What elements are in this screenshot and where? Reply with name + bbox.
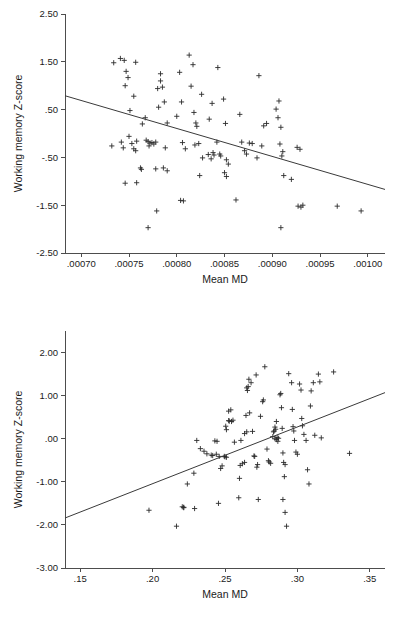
y-tick-label: -1.50 (36, 200, 58, 211)
y-tick-label: .50 (45, 104, 58, 115)
scatter-points-group (109, 53, 364, 231)
y-tick-label: 1.00 (40, 390, 59, 401)
x-tick-label: .00080 (162, 258, 191, 269)
y-tick-label: 2.00 (40, 347, 59, 358)
x-tick-label: .00085 (210, 258, 239, 269)
x-tick-label: .00100 (353, 258, 382, 269)
x-tick-label: .20 (146, 573, 159, 584)
x-tick-label: .00070 (67, 258, 96, 269)
scatter-plot-bottom-svg: 2.001.00.00-1.00-2.00-3.00.15.20.25.30.3… (0, 315, 393, 631)
y-tick-label: 1.50 (40, 56, 59, 67)
y-tick-label: -2.50 (36, 247, 58, 258)
regression-line (65, 393, 385, 518)
x-tick-label: .00090 (258, 258, 287, 269)
y-tick-label: -1.00 (36, 476, 58, 487)
x-axis-title: Mean MD (202, 588, 248, 600)
scatter-points-group (146, 364, 352, 529)
y-axis-title: Working memory Z-score (12, 391, 24, 509)
regression-line (65, 96, 385, 190)
y-tick-label: -.50 (42, 152, 58, 163)
y-axis-title: Working memory Z-score (12, 75, 24, 193)
x-tick-label: .15 (74, 573, 87, 584)
y-tick-label: -3.00 (36, 562, 58, 573)
figure-container: 2.501.50.50-.50-1.50-2.50.00070.00075.00… (0, 0, 393, 631)
scatter-panel-top: 2.501.50.50-.50-1.50-2.50.00070.00075.00… (0, 0, 393, 315)
x-axis-title: Mean MD (202, 273, 248, 285)
x-tick-label: .00095 (306, 258, 335, 269)
x-tick-label: .00075 (114, 258, 143, 269)
y-tick-label: .00 (45, 433, 58, 444)
x-tick-label: .35 (363, 573, 376, 584)
scatter-plot-top-svg: 2.501.50.50-.50-1.50-2.50.00070.00075.00… (0, 0, 393, 315)
y-tick-label: -2.00 (36, 519, 58, 530)
scatter-panel-bottom: 2.001.00.00-1.00-2.00-3.00.15.20.25.30.3… (0, 315, 393, 631)
x-tick-label: .25 (218, 573, 231, 584)
y-tick-label: 2.50 (40, 8, 59, 19)
x-tick-label: .30 (291, 573, 304, 584)
